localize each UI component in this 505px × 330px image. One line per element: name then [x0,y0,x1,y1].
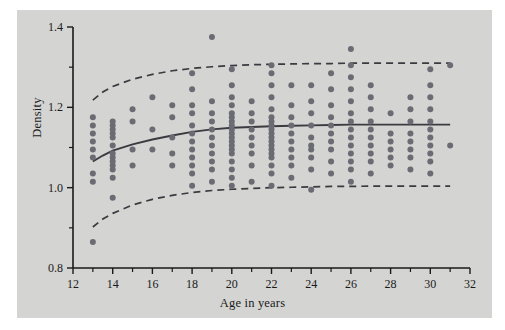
scatter-plot: 12141618202224262830320.81.01.21.4 [0,0,505,330]
svg-text:22: 22 [266,277,278,291]
svg-text:20: 20 [226,277,238,291]
svg-text:1.4: 1.4 [48,20,63,34]
svg-text:32: 32 [464,277,476,291]
svg-text:30: 30 [424,277,436,291]
svg-text:0.8: 0.8 [48,261,63,275]
svg-text:1.2: 1.2 [48,100,63,114]
svg-text:18: 18 [186,277,198,291]
svg-text:12: 12 [67,277,79,291]
svg-text:28: 28 [385,277,397,291]
data-points [90,34,453,245]
svg-text:1.0: 1.0 [48,181,63,195]
svg-text:24: 24 [305,277,317,291]
chart-container: 12141618202224262830320.81.01.21.4 Densi… [0,0,505,330]
x-axis-label: Age in years [0,296,505,311]
svg-text:16: 16 [146,277,158,291]
y-axis-label: Density [30,73,45,163]
svg-text:14: 14 [107,277,119,291]
svg-text:26: 26 [345,277,357,291]
